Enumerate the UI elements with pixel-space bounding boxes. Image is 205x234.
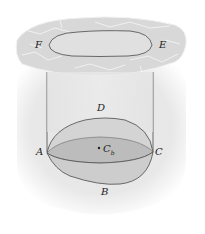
centroid-subscript: b <box>111 149 115 156</box>
label-D: D <box>97 103 105 113</box>
waterline-section-FE <box>49 31 152 57</box>
diagram-canvas <box>0 0 205 234</box>
label-C: C <box>155 147 163 157</box>
label-F: F <box>35 40 42 50</box>
label-E: E <box>159 40 166 50</box>
centroid-dot <box>98 147 100 149</box>
label-B: B <box>101 187 108 197</box>
label-centroid: Cb <box>103 144 115 156</box>
centroid-main: C <box>103 143 111 154</box>
label-A: A <box>36 147 43 157</box>
